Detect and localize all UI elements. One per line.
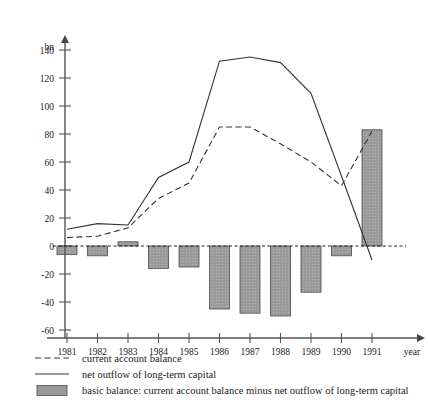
bar-1983	[118, 242, 138, 246]
legend-label: net outflow of long-term capital	[82, 369, 216, 380]
y-tick-label: 120	[40, 74, 55, 84]
y-tick-label: 100	[40, 102, 55, 112]
bar-1986	[210, 246, 230, 309]
y-tick-label: 60	[45, 158, 55, 168]
legend-label: current account balance	[82, 353, 182, 364]
y-tick-label: 80	[45, 130, 55, 140]
legend-label: basic balance: current account balance m…	[82, 385, 409, 396]
bar-1985	[179, 246, 199, 267]
line-series-group	[67, 57, 372, 260]
y-axis-unit-label: bn	[45, 42, 55, 52]
legend-item-1: net outflow of long-term capital	[34, 366, 424, 382]
chart-canvas: -60-40-200204060801001201401981198219831…	[0, 0, 428, 406]
bar-1989	[301, 246, 321, 292]
bar-series-group	[57, 130, 382, 316]
solid-line-swatch	[34, 369, 70, 379]
legend-item-2: basic balance: current account balance m…	[34, 382, 424, 398]
chart-container: -60-40-200204060801001201401981198219831…	[0, 0, 428, 406]
bar-1991	[362, 130, 382, 246]
y-tick-label: 20	[45, 214, 55, 224]
bar-1982	[88, 246, 108, 256]
y-tick-label: -40	[41, 298, 54, 308]
line-current-account-balance	[67, 127, 372, 238]
filled-box-swatch	[34, 385, 70, 396]
y-tick-label: -60	[41, 326, 54, 336]
bar-1981	[57, 246, 77, 254]
y-tick-label: 40	[45, 186, 55, 196]
chart-legend: current account balancenet outflow of lo…	[34, 350, 424, 398]
bar-1984	[149, 246, 169, 268]
bar-1990	[332, 246, 352, 256]
filled-box-swatch	[34, 385, 74, 396]
legend-item-0: current account balance	[34, 350, 424, 366]
bar-1988	[271, 246, 291, 316]
solid-line-swatch	[34, 369, 74, 379]
y-tick-label: 0	[49, 242, 54, 252]
bar-1987	[240, 246, 260, 313]
y-tick-label: -20	[41, 270, 54, 280]
line-net-outflow-long-term-capital	[67, 57, 372, 260]
dashed-line-swatch	[34, 353, 74, 363]
dashed-line-swatch	[34, 353, 70, 363]
